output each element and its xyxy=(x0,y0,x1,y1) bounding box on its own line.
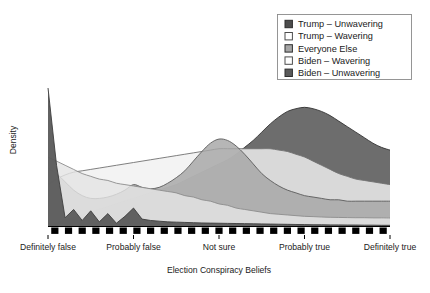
x-axis-tick-label: Definitely false xyxy=(20,242,76,252)
rug-marker xyxy=(256,228,263,234)
rug-marker xyxy=(174,228,181,234)
rug-marker xyxy=(311,228,318,234)
rug-marker xyxy=(92,228,99,234)
legend-swatch xyxy=(285,20,292,27)
legend-label: Everyone Else xyxy=(298,44,357,54)
y-axis-title: Density xyxy=(8,125,18,154)
rug-marker xyxy=(284,228,291,234)
legend-label: Trump – Wavering xyxy=(298,31,373,41)
density-plot-figure: Density Definitely falseProbably falseNo… xyxy=(0,0,430,293)
x-axis-title: Election Conspiracy Beliefs xyxy=(167,265,271,275)
rug-marker xyxy=(65,228,72,234)
rug-marker xyxy=(229,228,236,234)
legend-swatch xyxy=(285,45,292,52)
x-axis-tick-label: Definitely true xyxy=(364,242,417,252)
rug-marker xyxy=(243,228,250,234)
rug-marker xyxy=(188,228,195,234)
x-axis-tick-label: Probably true xyxy=(279,242,330,252)
legend-swatch xyxy=(285,69,292,76)
rug-marker xyxy=(297,228,304,234)
rug-marker xyxy=(106,228,113,234)
x-axis-tick-label: Not sure xyxy=(203,242,236,252)
rug-marker xyxy=(339,228,346,234)
rug-marker xyxy=(325,228,332,234)
rug-marker xyxy=(366,228,373,234)
rug-marker xyxy=(120,228,127,234)
x-axis-tick-label: Probably false xyxy=(106,242,161,252)
rug-marker xyxy=(79,228,86,234)
rug-marker xyxy=(380,228,387,234)
legend-swatch xyxy=(285,33,292,40)
legend-label: Biden – Unwavering xyxy=(298,68,380,78)
legend-swatch xyxy=(285,57,292,64)
rug-marker xyxy=(147,228,154,234)
chart-canvas: Density Definitely falseProbably falseNo… xyxy=(0,0,430,293)
legend-label: Trump – Unwavering xyxy=(298,19,383,29)
rug-marker xyxy=(161,228,168,234)
rug-marker xyxy=(215,228,222,234)
rug-marker xyxy=(352,228,359,234)
rug-marker xyxy=(270,228,277,234)
legend: Trump – UnwaveringTrump – WaveringEveryo… xyxy=(278,15,412,80)
rug-marker xyxy=(51,228,58,234)
rug-marker xyxy=(202,228,209,234)
rug-marker xyxy=(133,228,140,234)
legend-label: Biden – Wavering xyxy=(298,56,370,66)
